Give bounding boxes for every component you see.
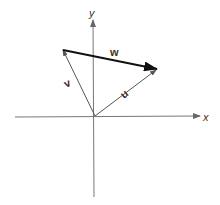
y-axis: [93, 20, 94, 197]
vector-u-label: u: [118, 87, 131, 101]
vector-diagram: x y u v w: [0, 0, 220, 205]
x-axis-label: x: [202, 111, 209, 123]
x-axis: [15, 116, 200, 117]
y-axis-label: y: [88, 7, 96, 19]
vector-w-label: w: [109, 46, 119, 58]
vector-v-label: v: [62, 76, 73, 90]
